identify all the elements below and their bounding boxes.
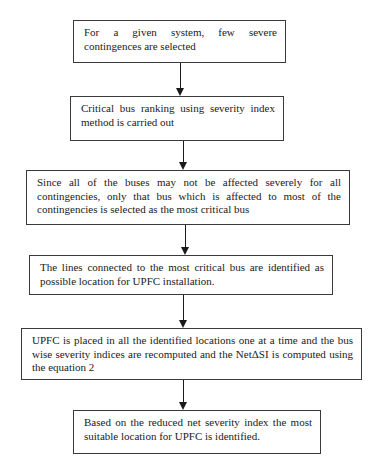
flowchart-step-place-upfc-recompute: UPFC is placed in all the identified loc… bbox=[21, 328, 362, 380]
connector-line bbox=[183, 295, 184, 321]
arrow-down-icon bbox=[179, 402, 187, 410]
step-text: Critical bus ranking using severity inde… bbox=[81, 102, 275, 128]
flowchart-step-identify-best-location: Based on the reduced net severity index … bbox=[73, 410, 321, 454]
step-text: For a given system, few severe contingen… bbox=[84, 26, 277, 52]
step-text: Based on the reduced net severity index … bbox=[84, 416, 312, 442]
arrow-down-icon bbox=[179, 162, 187, 170]
step-text: The lines connected to the most critical… bbox=[40, 261, 324, 287]
connector-line bbox=[185, 225, 186, 248]
connector-line bbox=[183, 141, 184, 163]
flowchart-step-critical-bus-ranking: Critical bus ranking using severity inde… bbox=[70, 96, 284, 141]
arrow-down-icon bbox=[181, 247, 189, 255]
flowchart-step-select-most-critical-bus: Since all of the buses may not be affect… bbox=[26, 170, 350, 225]
arrow-down-icon bbox=[176, 88, 184, 96]
step-text: Since all of the buses may not be affect… bbox=[37, 176, 341, 215]
flowchart-step-select-contingencies: For a given system, few severe contingen… bbox=[73, 20, 286, 63]
connector-line bbox=[183, 380, 184, 403]
flowchart-step-identify-lines: The lines connected to the most critical… bbox=[29, 255, 333, 295]
step-text: UPFC is placed in all the identified loc… bbox=[32, 334, 353, 373]
arrow-down-icon bbox=[179, 320, 187, 328]
connector-line bbox=[180, 63, 181, 89]
